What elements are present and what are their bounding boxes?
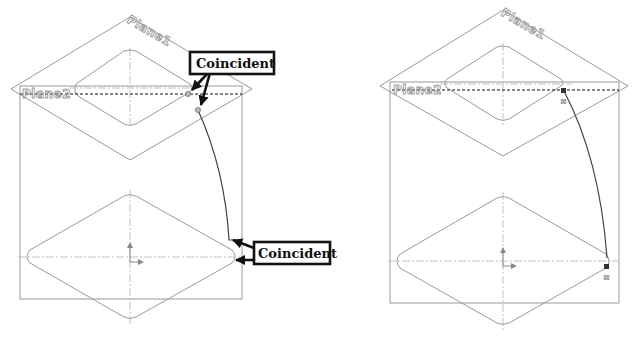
origin-icon: [127, 242, 144, 265]
right-panel: ⊠ ⊠ Plane1 Plane2: [380, 5, 628, 330]
plane2-label: Plane2: [393, 83, 442, 97]
lower-profile: [27, 195, 235, 319]
upper-profile: [445, 46, 563, 121]
plane1-label: Plane1: [125, 12, 174, 49]
endpoint-marker-upper: [561, 88, 566, 93]
origin-icon: [500, 247, 517, 269]
endpoint-marker-lower: [604, 264, 609, 269]
coincident-relation-icon: ⊠: [560, 97, 567, 106]
coincident-point-curve-start: [196, 108, 201, 113]
coincident-relation-icon: ⊠: [603, 273, 610, 282]
left-panel: Plane1 Plane2 Coincident Coincident: [11, 12, 337, 324]
sketch-figure: Plane1 Plane2 Coincident Coincident: [0, 0, 639, 344]
callout-coincident-top: Coincident: [190, 52, 275, 105]
coincident-point-upper-profile: [186, 92, 191, 97]
plane2-outline: [390, 82, 619, 303]
callout-label: Coincident: [196, 56, 275, 71]
plane2-label: Plane2: [22, 87, 71, 101]
callout-label: Coincident: [258, 246, 337, 261]
callout-coincident-bottom: Coincident: [233, 240, 337, 264]
plane2-outline: [20, 86, 242, 299]
plane1-label: Plane1: [499, 5, 548, 42]
guide-curve: [198, 110, 233, 240]
